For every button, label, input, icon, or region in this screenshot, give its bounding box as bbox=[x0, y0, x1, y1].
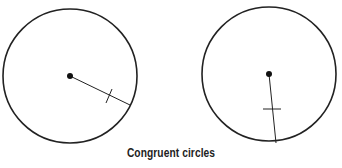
figure-caption: Congruent circles bbox=[26, 146, 317, 160]
right-center-point bbox=[266, 71, 272, 77]
right-circle-group bbox=[202, 7, 336, 143]
left-center-point bbox=[67, 73, 73, 79]
congruent-circles-diagram bbox=[0, 0, 342, 168]
left-circle-group bbox=[3, 9, 137, 143]
left-radius-line bbox=[70, 76, 130, 105]
